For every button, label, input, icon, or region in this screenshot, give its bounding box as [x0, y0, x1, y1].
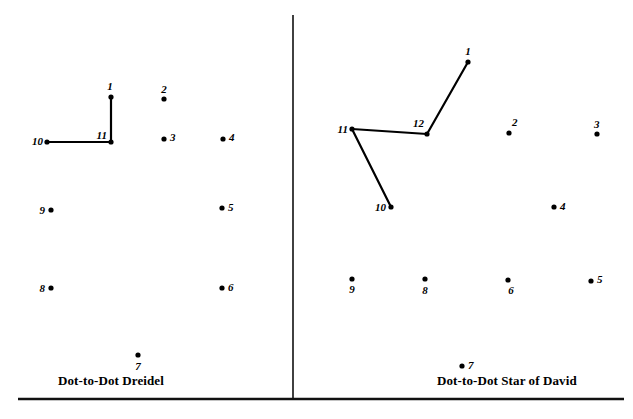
dot-right-4[interactable] — [551, 204, 556, 209]
dot-label-right-9: 9 — [349, 283, 355, 295]
dot-label-left-5: 5 — [228, 201, 234, 213]
dot-right-1[interactable] — [465, 59, 470, 64]
dot-label-right-11: 11 — [338, 123, 348, 135]
caption-left-panel: Dot-to-Dot Dreidel — [58, 373, 164, 389]
dot-labels-layer: 1234567891011123456789101112 — [32, 45, 603, 372]
dot-label-left-3: 3 — [169, 131, 176, 143]
dot-to-dot-worksheet: 1234567891011123456789101112 Dot-to-Dot … — [0, 0, 633, 419]
dot-right-5[interactable] — [588, 278, 593, 283]
dot-right-7[interactable] — [459, 363, 464, 368]
dot-right-3[interactable] — [594, 131, 599, 136]
rules-layer — [18, 15, 624, 399]
dot-label-right-1: 1 — [465, 45, 471, 57]
puzzle-canvas: 1234567891011123456789101112 — [0, 0, 633, 419]
dot-right-2[interactable] — [506, 130, 511, 135]
dot-label-left-10: 10 — [32, 135, 44, 147]
dot-right-6[interactable] — [505, 277, 510, 282]
dot-label-right-8: 8 — [422, 284, 428, 296]
dot-left-4[interactable] — [220, 136, 225, 141]
dot-label-left-6: 6 — [228, 281, 234, 293]
dot-left-3[interactable] — [161, 136, 166, 141]
dot-right-10[interactable] — [388, 204, 393, 209]
dot-label-right-3: 3 — [593, 118, 600, 130]
dot-label-left-2: 2 — [160, 83, 167, 95]
dot-label-left-11: 11 — [97, 129, 107, 141]
dot-left-10[interactable] — [44, 139, 49, 144]
dot-label-left-9: 9 — [40, 204, 46, 216]
dot-left-11[interactable] — [108, 139, 113, 144]
dot-label-left-4: 4 — [228, 131, 235, 143]
dot-left-8[interactable] — [48, 285, 53, 290]
dot-right-11[interactable] — [349, 126, 354, 131]
dot-left-5[interactable] — [219, 205, 224, 210]
connection-line-right-1-to-12 — [427, 62, 468, 134]
connection-line-right-12-to-11 — [352, 129, 427, 134]
dot-label-right-4: 4 — [559, 200, 566, 212]
dots-layer — [44, 59, 599, 368]
dot-left-1[interactable] — [108, 94, 113, 99]
dot-label-right-6: 6 — [508, 284, 514, 296]
connection-line-right-11-to-10 — [352, 129, 391, 207]
dot-label-right-5: 5 — [597, 273, 603, 285]
dot-right-8[interactable] — [422, 276, 427, 281]
dot-label-left-8: 8 — [40, 282, 46, 294]
dot-right-9[interactable] — [349, 276, 354, 281]
caption-right-panel: Dot-to-Dot Star of David — [437, 373, 577, 389]
dot-label-right-2: 2 — [511, 116, 518, 128]
dot-label-left-1: 1 — [107, 80, 113, 92]
dot-left-6[interactable] — [219, 285, 224, 290]
dot-left-2[interactable] — [161, 96, 166, 101]
dot-label-right-7: 7 — [468, 359, 474, 371]
dot-label-left-7: 7 — [135, 360, 141, 372]
dot-left-9[interactable] — [48, 207, 53, 212]
dot-left-7[interactable] — [135, 352, 140, 357]
dot-right-12[interactable] — [424, 131, 429, 136]
dot-label-right-10: 10 — [375, 201, 387, 213]
dot-label-right-12: 12 — [413, 117, 425, 129]
